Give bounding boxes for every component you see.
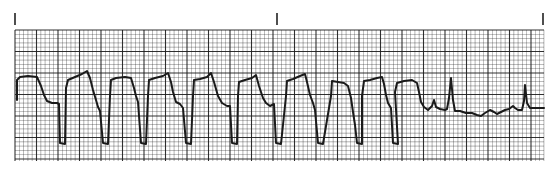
time-markers — [15, 13, 543, 25]
ecg-strip — [0, 0, 556, 173]
